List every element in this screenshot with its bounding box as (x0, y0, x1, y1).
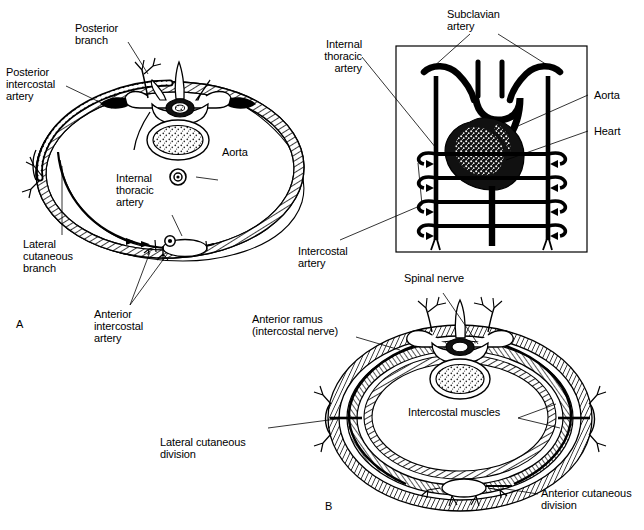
label-aorta-panel-a: Aorta (222, 146, 248, 158)
label-anterior-ramus: Anterior ramus (intercostal nerve) (252, 313, 338, 337)
leader-posterior-branch (128, 42, 148, 74)
leader-aorta-a (196, 177, 218, 180)
label-heart: Heart (594, 125, 620, 137)
label-intercostal-artery-inset: Intercostal artery (298, 245, 348, 269)
panel-letter-a: A (16, 318, 23, 330)
label-posterior-intercostal-artery: Posterior intercostal artery (6, 66, 55, 103)
label-internal-thoracic-artery-inset: Internal thoracic artery (266, 38, 362, 75)
label-anterior-cutaneous-division: Anterior cutaneous division (541, 487, 632, 511)
label-internal-thoracic-artery-panel-a: Internal thoracic artery (116, 172, 154, 209)
leader-anterior-intercostal-1 (130, 252, 150, 305)
panel-letter-b: B (325, 500, 332, 512)
panel-a-vertebra (100, 58, 256, 160)
label-spinal-nerve: Spinal nerve (404, 272, 464, 284)
label-subclavian-artery: Subclavian artery (447, 8, 500, 32)
label-intercostal-muscles: Intercostal muscles (408, 406, 500, 418)
label-lateral-cutaneous-division: Lateral cutaneous division (160, 436, 246, 460)
label-aorta-inset: Aorta (594, 89, 620, 101)
leader-anterior-intercostal-2 (130, 253, 168, 305)
anatomy-figure: Posterior branch Posterior intercostal a… (0, 0, 644, 530)
aorta-cross-section-panel-a (170, 169, 186, 185)
label-posterior-branch: Posterior branch (75, 22, 118, 46)
label-anterior-intercostal-artery: Anterior intercostal artery (94, 308, 143, 345)
leader-internal-thoracic-artery-a (172, 215, 182, 236)
inset-panel-drawing (340, 34, 588, 252)
label-lateral-cutaneous-branch: Lateral cutaneous branch (23, 238, 73, 275)
